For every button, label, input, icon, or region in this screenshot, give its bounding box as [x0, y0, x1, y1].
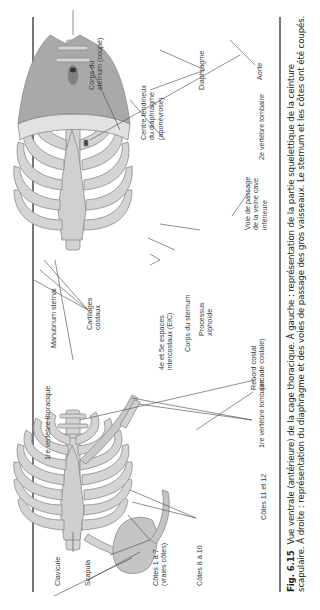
- left-ribcage-illustration: [14, 395, 169, 573]
- label-aorta: Aorte: [256, 63, 264, 80]
- figure-number: Fig. 6.15: [286, 550, 296, 592]
- caption-line-1: Fig. 6.15Vue ventrale (antérieure) de la…: [286, 2, 296, 592]
- label-diaphragm: Diaphragme: [198, 51, 206, 90]
- label-2nd-lumbar-vertebra: 2e vertèbre lombaire: [258, 94, 266, 160]
- label-costal-cartilages: Cartilages costaux: [86, 298, 103, 330]
- textbook-page: 1re vertèbre thoracique Clavicule Scapul…: [0, 0, 320, 610]
- label-vena-cava-passage: Voie de passage de la veine cave inférie…: [244, 177, 269, 230]
- caption-line-2: scapulaire. À droite : représentation du…: [296, 2, 306, 592]
- label-central-tendon: Centre tendineux du diaphragme (aponévro…: [140, 85, 165, 140]
- label-ribs-1-7: Côtes 1 à 7 (vraies côtes): [152, 543, 169, 586]
- label-sternum-body: Corps du sternum: [184, 295, 192, 352]
- label-scapula: Scapula: [84, 560, 92, 586]
- label-clavicle: Clavicule: [54, 557, 62, 586]
- label-xiphoid-process: Processus xiphoïde: [198, 302, 215, 336]
- label-1st-thoracic-vertebra: 1re vertèbre thoracique: [44, 386, 52, 460]
- label-sternum-body-cut: Corps du sternum (coupé): [88, 38, 105, 90]
- label-intercostal-spaces: 4e et 5e espaces intercostaux (EIC): [158, 312, 175, 370]
- label-costal-margin: Rebord costal (arcade costale): [250, 338, 267, 390]
- label-ribs-11-12: Côtes 11 et 12: [260, 474, 268, 520]
- figure-caption: Fig. 6.15Vue ventrale (antérieure) de la…: [286, 2, 307, 592]
- label-manubrium: Manubrium sternal: [50, 288, 58, 348]
- right-diaphragm-illustration: [14, 35, 132, 250]
- label-ribs-8-10: Côtes 8 à 10: [196, 545, 204, 586]
